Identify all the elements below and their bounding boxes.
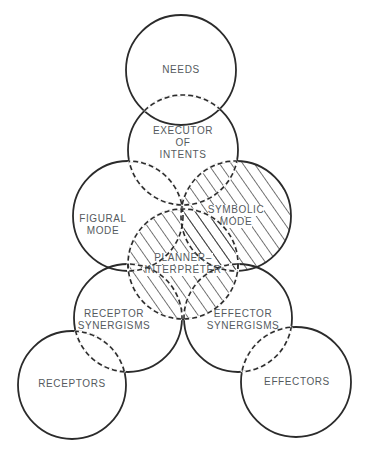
executor-label-line2: OF xyxy=(153,137,213,149)
executor-label-line1: EXECUTOR xyxy=(153,125,213,137)
symbolic-mode-label-line1: SYMBOLIC xyxy=(208,204,264,216)
effectors-label: EFFECTORS xyxy=(264,376,330,388)
planner-interpreter-label: PLANNER– INTERPRETER xyxy=(144,252,221,276)
executor-label: EXECUTOR OF INTENTS xyxy=(153,125,213,161)
executor-label-line3: INTENTS xyxy=(153,149,213,161)
effector-synergisms-label-line1: EFFECTOR xyxy=(207,308,280,320)
needs-label-text: NEEDS xyxy=(162,64,199,76)
effector-synergisms-label-line2: SYNERGISMS xyxy=(207,320,280,332)
needs-label: NEEDS xyxy=(162,64,199,76)
effector-synergisms-label: EFFECTOR SYNERGISMS xyxy=(207,308,280,332)
planner-interpreter-label-line2: INTERPRETER xyxy=(144,264,221,276)
symbolic-mode-label: SYMBOLIC MODE xyxy=(208,204,264,228)
figural-mode-label: FIGURAL MODE xyxy=(79,213,127,237)
effectors-label-text: EFFECTORS xyxy=(264,376,330,388)
receptor-synergisms-label: RECEPTOR SYNERGISMS xyxy=(78,308,151,332)
symbolic-mode-label-line2: MODE xyxy=(208,216,264,228)
receptors-label: RECEPTORS xyxy=(38,378,105,390)
figural-mode-label-line2: MODE xyxy=(79,225,127,237)
receptor-synergisms-label-line2: SYNERGISMS xyxy=(78,320,151,332)
planner-interpreter-label-line1: PLANNER– xyxy=(144,252,221,264)
receptors-label-text: RECEPTORS xyxy=(38,378,105,390)
receptor-synergisms-label-line1: RECEPTOR xyxy=(78,308,151,320)
figural-mode-label-line1: FIGURAL xyxy=(79,213,127,225)
